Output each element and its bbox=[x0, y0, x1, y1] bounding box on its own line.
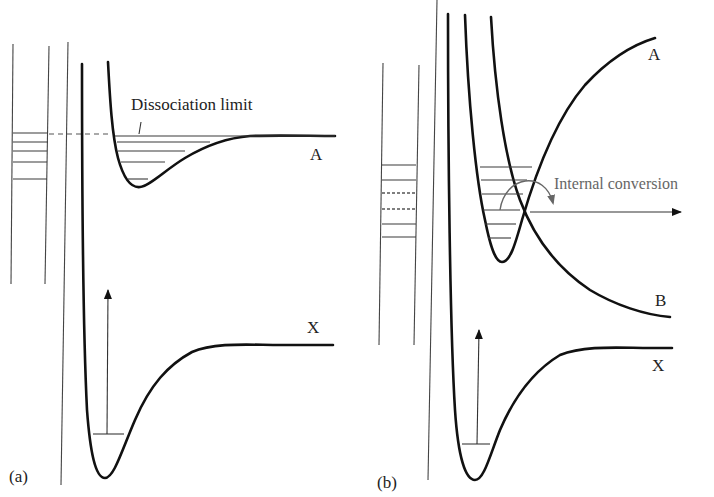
panel-b: B A Internal conversion X (b) bbox=[377, 0, 681, 492]
curve-x-ground bbox=[82, 64, 333, 478]
potential-energy-diagram: Dissociation limit A X (a) B bbox=[0, 0, 714, 497]
curve-x-ground-b bbox=[448, 14, 672, 480]
curve-label-a: A bbox=[310, 145, 323, 164]
excitation-arrow-a bbox=[107, 290, 108, 434]
energy-level-ladder-b bbox=[379, 63, 419, 345]
dissociation-limit-label: Dissociation limit bbox=[131, 95, 253, 114]
panel-label-b: (b) bbox=[377, 473, 397, 492]
curve-label-b: B bbox=[655, 291, 666, 310]
excitation-arrow-b bbox=[477, 330, 479, 444]
panel-a: Dissociation limit A X (a) bbox=[9, 42, 335, 486]
energy-axis-a bbox=[61, 42, 68, 485]
panel-label-a: (a) bbox=[9, 467, 28, 486]
energy-axis-b bbox=[428, 0, 437, 480]
curve-a-excited bbox=[108, 62, 335, 187]
energy-level-ladder-a bbox=[11, 44, 49, 284]
internal-conversion-label: Internal conversion bbox=[554, 175, 678, 192]
curve-label-x-a: X bbox=[307, 318, 319, 337]
curve-label-x-b: X bbox=[652, 356, 664, 375]
curve-label-a-b: A bbox=[648, 45, 661, 64]
